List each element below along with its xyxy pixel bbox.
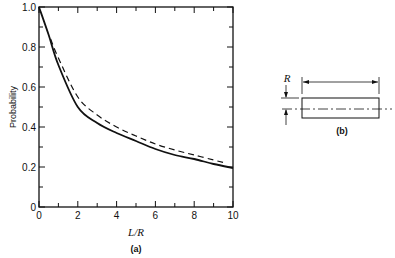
x-tick-label: 10 [227,210,239,221]
diagram-b: R (b) [281,72,392,136]
x-tick-label: 8 [191,210,197,221]
arrow-up-icon [284,109,288,115]
cylinder-outline [302,98,379,118]
y-axis-label: Probability [8,85,18,128]
y-tick-label: 0 [30,202,36,213]
y-tick-label: 0.6 [22,82,36,93]
y-tick-label: 0.4 [22,122,36,133]
series-solid-line [39,7,233,168]
arrow-down-icon [284,92,288,98]
radius-label: R [283,72,291,84]
y-tick-label: 0.2 [22,162,36,173]
plot-axes: 024681000.20.40.60.81.0 [22,2,239,222]
x-axis-label: L/R [127,226,144,238]
y-tick-label: 1.0 [22,2,36,13]
arrow-right-icon [372,80,378,84]
x-tick-label: 4 [114,210,120,221]
x-tick-label: 6 [153,210,159,221]
plot-series [39,7,233,168]
plot-frame [39,7,233,207]
x-tick-label: 2 [75,210,81,221]
series-dashed-line [51,39,226,163]
chart-a: 024681000.20.40.60.81.0 Probability L/R … [0,0,395,258]
arrow-left-icon [303,80,309,84]
caption-a: (a) [131,244,142,254]
caption-b: (b) [336,126,348,136]
x-tick-label: 0 [36,210,42,221]
y-tick-label: 0.8 [22,42,36,53]
